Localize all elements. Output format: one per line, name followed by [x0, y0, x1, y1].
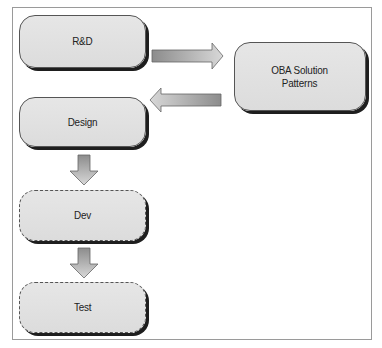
arrow-right-icon [152, 43, 223, 69]
arrow-down-icon [70, 248, 98, 278]
arrows-layer [0, 0, 382, 348]
arrow-down-icon [70, 155, 98, 185]
arrow-left-icon [150, 88, 221, 112]
